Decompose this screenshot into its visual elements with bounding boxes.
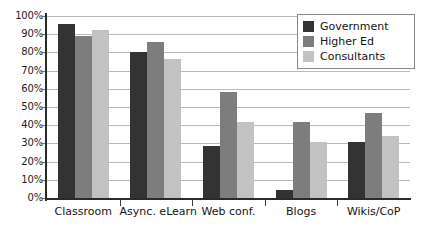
legend-label: Higher Ed	[320, 35, 374, 48]
x-tick-label: Blogs	[265, 205, 338, 218]
y-tick-label: 100%	[3, 10, 43, 21]
x-tick-label: Async. eLearn	[120, 205, 193, 218]
x-axis-separator	[265, 200, 266, 206]
legend-item-consultants: Consultants	[303, 49, 408, 64]
legend-swatch-icon	[303, 21, 314, 32]
y-tick-label: 0%	[3, 192, 43, 203]
y-tick-label: 30%	[3, 137, 43, 148]
bar-group	[58, 16, 109, 198]
x-axis-separator	[337, 200, 338, 206]
y-tick-label: 70%	[3, 65, 43, 76]
y-tick-label: 50%	[3, 101, 43, 112]
bar	[147, 42, 164, 198]
bar	[130, 52, 147, 199]
y-tick-label: 40%	[3, 119, 43, 130]
bar	[58, 24, 75, 198]
bar	[92, 30, 109, 198]
legend-swatch-icon	[303, 36, 314, 47]
y-tick-label: 60%	[3, 83, 43, 94]
legend-label: Consultants	[320, 50, 385, 63]
y-tick-label: 90%	[3, 28, 43, 39]
bar	[276, 190, 293, 198]
bar	[203, 146, 220, 198]
y-tick-label: 20%	[3, 156, 43, 167]
bar	[382, 136, 399, 198]
legend-swatch-icon	[303, 51, 314, 62]
y-tick-label: 10%	[3, 174, 43, 185]
bar	[293, 122, 310, 198]
y-tick-label: 80%	[3, 46, 43, 57]
bar-group	[130, 16, 181, 198]
legend-label: Government	[320, 20, 389, 33]
x-axis-separator	[192, 200, 193, 206]
x-axis-separator	[120, 200, 121, 206]
x-tick-label: Classroom	[47, 205, 120, 218]
x-axis-line	[45, 198, 411, 200]
x-tick-label: Web conf.	[192, 205, 265, 218]
bar-chart: 100%90%80%70%60%50%40%30%20%10%0% Classr…	[0, 0, 421, 236]
chart-legend: Government Higher Ed Consultants	[297, 14, 415, 69]
bar	[220, 92, 237, 198]
x-tick-label: Wikis/CoP	[337, 205, 410, 218]
legend-item-government: Government	[303, 19, 408, 34]
bar	[348, 142, 365, 198]
bar-group	[203, 16, 254, 198]
bar	[237, 122, 254, 198]
bar	[75, 36, 92, 198]
legend-item-higher-ed: Higher Ed	[303, 34, 408, 49]
bar	[365, 113, 382, 198]
y-axis-labels: 100%90%80%70%60%50%40%30%20%10%0%	[0, 0, 43, 236]
bar	[310, 142, 327, 198]
y-axis-line	[45, 13, 47, 201]
bar	[164, 59, 181, 198]
